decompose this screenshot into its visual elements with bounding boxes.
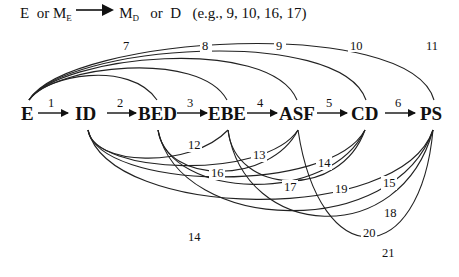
label-21: 21 — [382, 246, 395, 260]
node-e: E — [21, 103, 34, 124]
label-16: 16 — [211, 166, 224, 180]
node-ebe: EBE — [208, 103, 246, 124]
label-8: 8 — [202, 39, 208, 53]
label-9: 9 — [276, 39, 282, 53]
label-18: 18 — [384, 206, 397, 220]
label-7: 7 — [123, 39, 129, 53]
upper-arc-labels: 7 8 9 10 11 — [121, 38, 440, 53]
label-17: 17 — [284, 180, 297, 194]
label-6: 6 — [395, 96, 401, 110]
node-cd: CD — [351, 103, 378, 124]
node-id: ID — [75, 103, 96, 124]
arc-19 — [228, 130, 365, 181]
label-2: 2 — [117, 96, 123, 110]
arc-12 — [88, 130, 228, 158]
label-1: 1 — [48, 96, 54, 110]
arc-9 — [29, 58, 297, 100]
label-4: 4 — [257, 96, 264, 110]
label-14: 14 — [318, 156, 331, 170]
label-19: 19 — [335, 182, 348, 196]
label-12: 12 — [188, 138, 201, 152]
label-14-stray: 14 — [188, 230, 201, 244]
label-10: 10 — [350, 39, 363, 53]
label-5: 5 — [326, 96, 332, 110]
arc-11 — [29, 44, 434, 100]
label-20: 20 — [363, 226, 376, 240]
label-11: 11 — [426, 39, 438, 53]
label-13: 13 — [253, 148, 266, 162]
upper-arcs — [29, 44, 434, 100]
node-asf: ASF — [279, 103, 315, 124]
node-ps: PS — [420, 103, 442, 124]
nodes: E ID BED EBE ASF CD PS — [21, 103, 442, 124]
label-15: 15 — [383, 176, 396, 190]
arc-8 — [29, 68, 227, 100]
node-bed: BED — [138, 103, 177, 124]
label-3: 3 — [187, 96, 193, 110]
lower-arc-labels: 12 13 14 15 16 17 18 19 20 21 14 — [186, 138, 398, 260]
process-diagram: 7 8 9 10 11 12 13 14 15 16 17 1 — [0, 0, 459, 277]
